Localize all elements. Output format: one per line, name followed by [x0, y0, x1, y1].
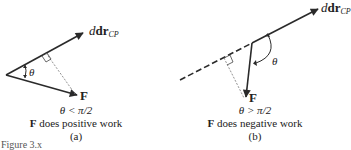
force-vector-a — [6, 75, 77, 95]
dr-label-a: ddrCP — [89, 24, 119, 39]
right-angle-marker-b — [224, 55, 233, 65]
panel-label-b: (b) — [195, 130, 315, 143]
panel-b — [180, 9, 318, 98]
dr-extension-dashed-b — [180, 43, 252, 80]
dr-vector-b — [252, 9, 318, 43]
dr-vector-a — [6, 33, 83, 75]
condition-b: θ > π/2 — [195, 104, 315, 117]
projection-line-b — [224, 58, 244, 98]
force-vector-b — [246, 43, 252, 97]
partial-figure-caption: Figure 3.x — [1, 139, 42, 150]
theta-label-a: θ — [29, 67, 34, 78]
caption-b: θ > π/2 F does negative work (b) — [195, 104, 315, 143]
theta-label-b: θ — [272, 56, 277, 67]
panel-a — [6, 33, 83, 95]
description-b: F does negative work — [195, 117, 315, 130]
condition-a: θ < π/2 — [16, 104, 136, 117]
force-label-b: F — [249, 91, 257, 104]
dr-label-b: ddrCP — [321, 1, 351, 16]
caption-a: θ < π/2 F does positive work (a) — [16, 104, 136, 143]
description-a: F does positive work — [16, 117, 136, 130]
force-label-a: F — [80, 89, 88, 102]
